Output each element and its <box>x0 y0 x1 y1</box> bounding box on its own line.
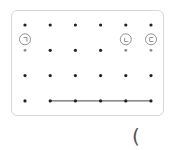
grid-dot <box>74 99 77 102</box>
grid-dot <box>23 99 26 102</box>
grid-dot <box>149 74 152 77</box>
grid-dot <box>49 49 52 52</box>
grid-dot <box>124 74 127 77</box>
grid-dot <box>74 23 77 26</box>
grid-dot <box>49 99 52 102</box>
answer-parenthesis: ( <box>132 126 140 146</box>
label-text: ㄱ <box>22 36 28 44</box>
grid-dot <box>124 49 127 52</box>
label-text: ㄴ <box>123 36 129 44</box>
grid-dot <box>49 74 52 77</box>
point-label: ㄱ <box>20 34 31 45</box>
grid-dot <box>24 49 27 52</box>
grid-dot <box>23 74 26 77</box>
grid-dot <box>99 49 102 52</box>
grid-dot <box>99 74 102 77</box>
grid-dot <box>150 49 153 52</box>
grid-dot <box>149 99 152 102</box>
point-label: ㄴ <box>120 34 131 45</box>
grid-dot <box>49 23 52 26</box>
grid-dot <box>74 49 77 52</box>
grid-dot <box>124 99 127 102</box>
point-label: ㄷ <box>146 34 157 45</box>
grid-dot <box>99 23 102 26</box>
grid-dot <box>124 23 127 26</box>
dot-grid: ㄱㄴㄷ <box>0 0 175 150</box>
label-text: ㄷ <box>148 36 154 44</box>
grid-dot <box>23 23 26 26</box>
grid-dot <box>74 74 77 77</box>
grid-dot <box>99 99 102 102</box>
grid-dot <box>149 23 152 26</box>
